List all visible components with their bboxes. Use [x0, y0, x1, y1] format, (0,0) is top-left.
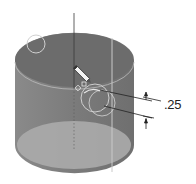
cylinder[interactable] — [15, 33, 134, 173]
dimension-value: .25 — [164, 97, 181, 112]
diagram-canvas: .25 — [0, 0, 196, 184]
cylinder-illustration — [0, 0, 196, 184]
